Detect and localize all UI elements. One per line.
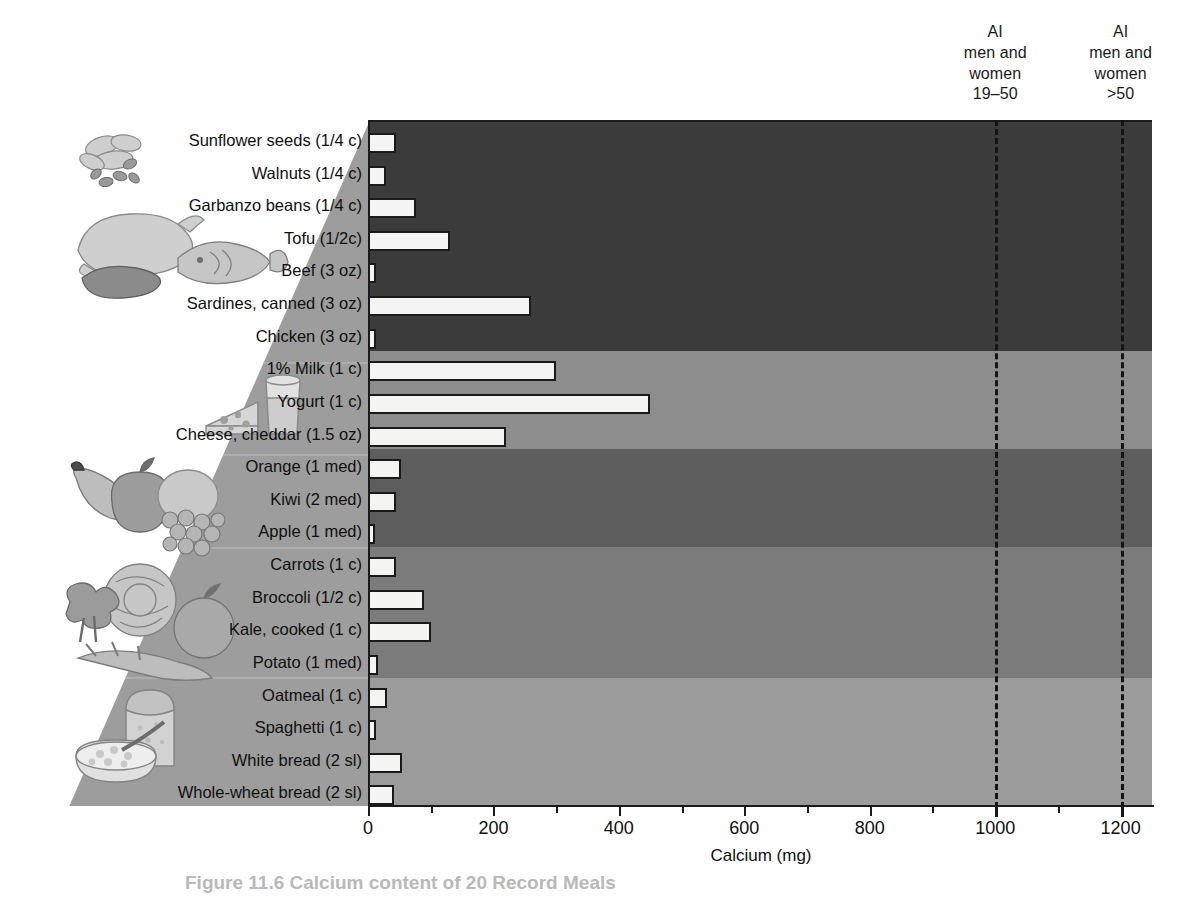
bar: [368, 427, 506, 447]
category-label: 1% Milk (1 c): [32, 358, 362, 378]
x-axis-tick: [1121, 805, 1123, 816]
x-axis-tick-label: 1200: [1081, 818, 1161, 839]
group-band-grain: [368, 678, 1152, 807]
group-band-protein: [368, 122, 1152, 351]
category-label: Walnuts (1/4 c): [32, 163, 362, 183]
group-band-vegetable: [368, 547, 1152, 677]
category-label: Broccoli (1/2 c): [32, 587, 362, 607]
plot-area: [368, 120, 1152, 805]
x-axis-minor-tick: [682, 805, 684, 813]
category-label: Orange (1 med): [32, 456, 362, 476]
category-label: Spaghetti (1 c): [32, 717, 362, 737]
category-label: Oatmeal (1 c): [32, 685, 362, 705]
bar: [368, 492, 396, 512]
category-label: Garbanzo beans (1/4 c): [32, 195, 362, 215]
category-label: Chicken (3 oz): [32, 326, 362, 346]
figure-root: AI men and women 19–50 AI men and women …: [0, 0, 1192, 901]
category-label-column: Sunflower seeds (1/4 c)Walnuts (1/4 c)Ga…: [30, 120, 362, 810]
x-axis-tick: [870, 805, 872, 816]
bar: [368, 394, 650, 414]
figure-caption: Figure 11.6 Calcium content of 20 Record…: [185, 872, 945, 898]
y-axis-line: [368, 120, 370, 807]
category-label: Cheese, cheddar (1.5 oz): [32, 424, 362, 444]
category-label: Carrots (1 c): [32, 554, 362, 574]
x-axis-minor-tick: [932, 805, 934, 813]
x-axis-tick: [493, 805, 495, 816]
category-label: White bread (2 sl): [32, 750, 362, 770]
x-axis-minor-tick: [807, 805, 809, 813]
bar: [368, 296, 531, 316]
bar: [368, 753, 402, 773]
x-axis-minor-tick: [556, 805, 558, 813]
bar: [368, 166, 386, 186]
bar: [368, 590, 424, 610]
bar: [368, 459, 401, 479]
category-label: Tofu (1/2c): [32, 228, 362, 248]
x-axis-minor-tick: [1058, 805, 1060, 813]
x-axis-tick-label: 600: [704, 818, 784, 839]
category-label: Apple (1 med): [32, 521, 362, 541]
category-label: Beef (3 oz): [32, 260, 362, 280]
category-label: Potato (1 med): [32, 652, 362, 672]
x-axis-tick-label: 0: [328, 818, 408, 839]
x-axis-title: Calcium (mg): [368, 846, 1154, 866]
x-axis-tick: [744, 805, 746, 816]
category-label: Whole-wheat bread (2 sl): [32, 782, 362, 802]
x-axis-tick-label: 1000: [955, 818, 1035, 839]
bar: [368, 361, 556, 381]
ai-annotation-19-50: AI men and women 19–50: [934, 22, 1056, 105]
category-label: Sunflower seeds (1/4 c): [32, 130, 362, 150]
x-axis-tick-label: 800: [830, 818, 910, 839]
reference-line-1200mg: [1121, 120, 1124, 808]
category-label: Kale, cooked (1 c): [32, 619, 362, 639]
bar: [368, 231, 450, 251]
bar: [368, 198, 416, 218]
bar: [368, 622, 431, 642]
x-axis-tick: [619, 805, 621, 816]
x-axis-tick-label: 200: [453, 818, 533, 839]
category-label: Sardines, canned (3 oz): [32, 293, 362, 313]
x-axis-tick: [995, 805, 997, 816]
bar: [368, 557, 396, 577]
reference-line-1000mg: [995, 120, 998, 808]
x-axis-tick: [368, 805, 370, 816]
ai-annotation-over-50: AI men and women >50: [1060, 22, 1182, 105]
bar: [368, 688, 387, 708]
x-axis-tick-label: 400: [579, 818, 659, 839]
bar: [368, 785, 394, 805]
x-axis-minor-tick: [431, 805, 433, 813]
category-label: Kiwi (2 med): [32, 489, 362, 509]
category-label: Yogurt (1 c): [32, 391, 362, 411]
bar: [368, 133, 396, 153]
group-band-fruit: [368, 449, 1152, 547]
